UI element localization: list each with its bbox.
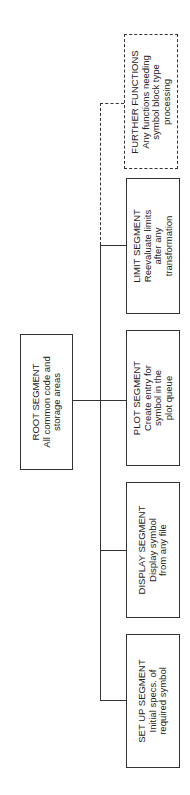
setup-connector <box>100 700 126 701</box>
limit-connector <box>100 245 126 246</box>
plot-segment-label: PLOT SEGMENT Create entry for symbol in … <box>132 361 174 435</box>
display-desc-line: from any file <box>158 506 169 595</box>
root-desc-line: storage areas <box>52 356 63 447</box>
root-segment-label: ROOT SEGMENT All common code and storage… <box>31 356 63 447</box>
plot-segment-box: PLOT SEGMENT Create entry for symbol in … <box>126 330 180 466</box>
plot-desc-line: symbol in the <box>153 361 164 435</box>
further-connector-dashed <box>100 103 124 104</box>
limit-segment-label: LIMIT SEGMENT Reevaluate limits after an… <box>132 209 174 283</box>
display-segment-label: DISPLAY SEGMENT Display symbol from any … <box>137 506 169 595</box>
limit-desc-line: after any <box>153 209 164 283</box>
plot-desc-line: plot queue <box>164 361 175 435</box>
display-connector <box>100 550 126 551</box>
root-connector <box>73 400 100 401</box>
further-title: FURTHER FUNCTIONS <box>130 50 141 153</box>
setup-desc-line: required symbol <box>158 659 169 743</box>
setup-segment-box: SET UP SEGMENT Initial specs. of require… <box>126 634 180 768</box>
limit-segment-box: LIMIT SEGMENT Reevaluate limits after an… <box>126 178 180 314</box>
root-segment-box: ROOT SEGMENT All common code and storage… <box>20 334 73 470</box>
plot-connector <box>100 400 126 401</box>
setup-segment-label: SET UP SEGMENT Initial specs. of require… <box>137 659 169 743</box>
limit-desc-line: transformation <box>164 209 175 283</box>
plot-title: PLOT SEGMENT <box>132 361 143 435</box>
further-trunk-dashed <box>100 103 101 245</box>
further-desc-line: symbol block type <box>151 50 162 153</box>
setup-title: SET UP SEGMENT <box>137 659 148 743</box>
further-desc-line: processing <box>162 50 173 153</box>
root-desc-line: All common code and <box>41 356 52 447</box>
display-segment-box: DISPLAY SEGMENT Display symbol from any … <box>126 482 180 618</box>
further-functions-box: FURTHER FUNCTIONS Any functions needing … <box>124 34 178 169</box>
further-functions-label: FURTHER FUNCTIONS Any functions needing … <box>130 50 172 153</box>
root-title: ROOT SEGMENT <box>31 356 42 447</box>
limit-title: LIMIT SEGMENT <box>132 209 143 283</box>
trunk-line <box>100 245 101 701</box>
display-title: DISPLAY SEGMENT <box>137 506 148 595</box>
